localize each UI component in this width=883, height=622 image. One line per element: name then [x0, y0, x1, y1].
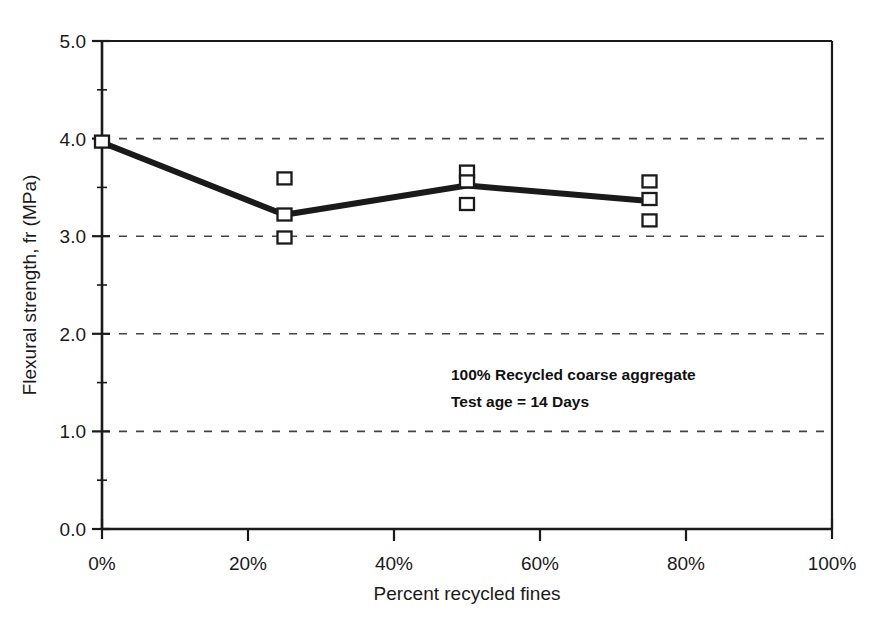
x-tick-label-4: 80% [667, 553, 705, 574]
marker-25pct-2 [278, 209, 292, 221]
marker-0pct-1 [95, 136, 109, 148]
y-tick-label-4: 4.0 [60, 129, 86, 150]
x-tick-label-3: 60% [521, 553, 559, 574]
x-axis-title: Percent recycled fines [374, 583, 561, 604]
x-tick-label-2: 40% [375, 553, 413, 574]
marker-75pct-1 [643, 175, 657, 187]
marker-75pct-3 [643, 214, 657, 226]
y-tick-label-2: 2.0 [60, 324, 86, 345]
flexural-strength-line-chart: 0.0 1.0 2.0 3.0 4.0 5.0 0% 20% 40% 60% 8… [0, 0, 883, 622]
y-tick-label-5: 5.0 [60, 31, 86, 52]
marker-25pct-3 [278, 232, 292, 244]
y-axis-title: Flexural strength, fr (MPa) [19, 175, 40, 396]
annotation-test-age: Test age = 14 Days [451, 393, 589, 410]
x-tick-label-5: 100% [808, 553, 857, 574]
chart-figure: 0.0 1.0 2.0 3.0 4.0 5.0 0% 20% 40% 60% 8… [0, 0, 883, 622]
x-tick-label-0: 0% [88, 553, 116, 574]
marker-25pct-1 [278, 172, 292, 184]
marker-50pct-2 [460, 175, 474, 187]
marker-50pct-3 [460, 198, 474, 210]
marker-75pct-2 [643, 193, 657, 205]
y-tick-label-3: 3.0 [60, 226, 86, 247]
x-tick-label-1: 20% [229, 553, 267, 574]
annotation-condition: 100% Recycled coarse aggregate [451, 366, 696, 383]
y-tick-label-0: 0.0 [60, 519, 86, 540]
y-tick-label-1: 1.0 [60, 421, 86, 442]
